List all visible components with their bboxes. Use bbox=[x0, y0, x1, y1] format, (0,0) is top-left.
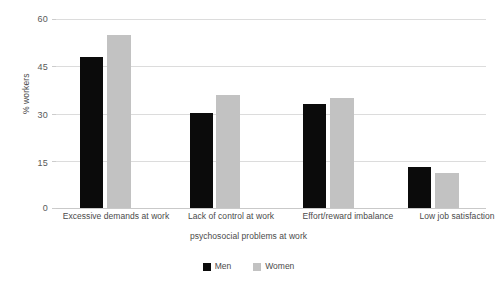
y-tick-label-45: 45 bbox=[14, 62, 48, 72]
y-tick-mark-15 bbox=[52, 161, 56, 162]
x-axis-title: psychosocial problems at work bbox=[0, 231, 497, 241]
legend-label-women: Women bbox=[265, 262, 294, 271]
y-tick-label-15: 15 bbox=[14, 158, 48, 168]
bar-men-excessive-demands bbox=[80, 57, 103, 208]
bar-men-effort-reward-imbalance bbox=[303, 104, 326, 208]
chart-legend: Men Women bbox=[0, 262, 497, 271]
bar-women-lack-of-control bbox=[216, 95, 240, 208]
bar-chart: % workers 60 45 30 15 0 Excessiv bbox=[0, 0, 497, 287]
legend-label-men: Men bbox=[215, 262, 232, 271]
plot-area bbox=[56, 19, 486, 208]
bar-women-low-job-satisfaction bbox=[435, 173, 459, 208]
legend-item-men[interactable]: Men bbox=[203, 262, 232, 271]
y-tick-mark-30 bbox=[52, 114, 56, 115]
legend-item-women[interactable]: Women bbox=[253, 262, 294, 271]
y-tick-label-30: 30 bbox=[14, 110, 48, 120]
y-tick-mark-60 bbox=[52, 19, 56, 20]
axis-baseline bbox=[56, 208, 486, 209]
bar-women-excessive-demands bbox=[107, 35, 131, 208]
y-tick-mark-45 bbox=[52, 66, 56, 67]
y-axis-tick-labels: 60 45 30 15 0 bbox=[14, 0, 48, 287]
y-tick-mark-0 bbox=[52, 208, 56, 209]
y-tick-label-60: 60 bbox=[14, 14, 48, 24]
bar-men-low-job-satisfaction bbox=[408, 167, 431, 208]
x-tick-label-low-job-satisfaction: Low job satisfaction bbox=[382, 211, 497, 222]
gridline-60 bbox=[56, 19, 486, 20]
bar-men-lack-of-control bbox=[190, 113, 213, 208]
bar-women-effort-reward-imbalance bbox=[330, 98, 354, 208]
legend-swatch-women-icon bbox=[253, 263, 261, 271]
legend-swatch-men-icon bbox=[203, 263, 211, 271]
